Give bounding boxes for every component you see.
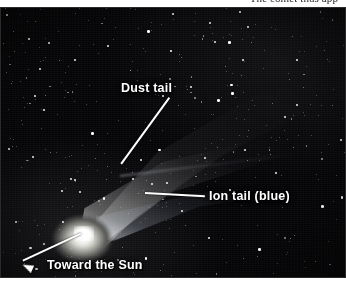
ion-tail-label: Ion tail (blue)	[209, 189, 290, 203]
page-bottom-margin	[0, 278, 346, 290]
figure-page: The comet thus app Dust tail Ion tail (b…	[0, 0, 346, 290]
clipped-body-text-strip: The comet thus app	[0, 0, 346, 7]
dust-tail-label: Dust tail	[121, 81, 172, 95]
clipped-body-text: The comet thus app	[250, 0, 338, 4]
comet-photograph: Dust tail Ion tail (blue) Toward the Sun	[0, 7, 346, 278]
film-grain-overlay	[0, 7, 346, 278]
toward-the-sun-label: Toward the Sun	[47, 258, 143, 272]
